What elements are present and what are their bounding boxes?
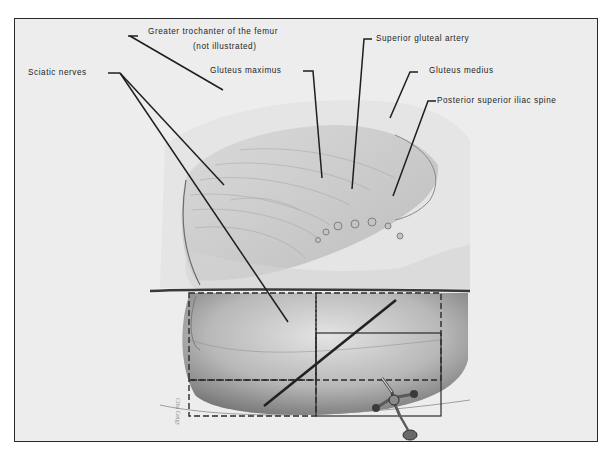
gluteal-fold — [150, 290, 470, 292]
artist-signature: Ciba Geigy — [175, 398, 181, 426]
label-gluteus-maximus: Gluteus maximus — [210, 66, 282, 75]
gluteal-illustration: Ciba Geigy — [0, 0, 609, 463]
label-gluteus-medius: Gluteus medius — [429, 66, 494, 75]
label-greater-trochanter: Greater trochanter of the femur — [148, 27, 278, 36]
hip-region — [160, 100, 470, 290]
label-sciatic-nerves: Sciatic nerves — [28, 68, 87, 77]
label-not-illustrated: (not illustrated) — [193, 42, 257, 51]
buttock-region — [160, 293, 470, 415]
label-superior-gluteal-artery: Superior gluteal artery — [376, 34, 469, 43]
label-posterior-superior-iliac-spine: Posterior superior iliac spine — [437, 96, 556, 105]
